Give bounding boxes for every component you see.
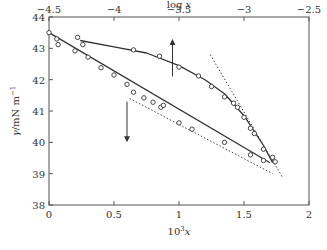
lower-data-point — [125, 82, 129, 86]
upper-data-point — [242, 115, 246, 119]
lower-data-point — [161, 103, 165, 107]
upper-data-point — [261, 147, 265, 151]
plot-frame — [49, 17, 309, 205]
lower-fit-line — [49, 33, 270, 163]
lower-data-point — [73, 49, 77, 53]
upper-data-point — [209, 84, 213, 88]
upper-data-point — [81, 42, 85, 46]
lower-data-point — [177, 121, 181, 125]
x-tick-label: 1.5 — [236, 209, 252, 220]
lower-data-point — [112, 73, 116, 77]
lower-data-point — [261, 158, 265, 162]
lower-data-point — [86, 55, 90, 59]
y-tick-label: 38 — [32, 200, 45, 211]
x2-tick-label: −4 — [107, 4, 122, 15]
lower-data-point — [55, 37, 59, 41]
upper-data-point — [222, 95, 226, 99]
upper-data-point — [157, 54, 161, 58]
tangent-lower-line — [130, 98, 273, 173]
lower-data-point — [142, 96, 146, 100]
lower-data-point — [248, 153, 252, 157]
y-tick-label: 40 — [32, 137, 45, 148]
upper-data-point — [131, 48, 135, 52]
x-axis-label: 103x — [168, 225, 191, 237]
lower-data-point — [99, 66, 103, 70]
upper-data-point — [252, 131, 256, 135]
upper-fit-curve — [80, 41, 272, 163]
y-tick-label: 43 — [32, 43, 45, 54]
surface-tension-chart: 38394041424344 00.511.52 −4.5−4−3.5−3−2.… — [0, 0, 327, 250]
y-tick-label: 39 — [32, 169, 45, 180]
upper-data-point — [231, 101, 235, 105]
x2-axis-label: log x — [167, 0, 192, 10]
upper-data-point — [270, 155, 274, 159]
lower-data-point — [222, 140, 226, 144]
upper-data-point — [196, 74, 200, 78]
y-axis-label: γ/mN m−1 — [9, 86, 21, 137]
y-tick-label: 42 — [32, 75, 45, 86]
x2-tick-label: −2.5 — [297, 4, 321, 15]
x2-tick-label: −4.5 — [37, 4, 61, 15]
y-tick-label: 41 — [32, 106, 45, 117]
x-tick-label: 0 — [46, 209, 52, 220]
lower-data-point — [47, 30, 51, 34]
x-tick-label: 1 — [176, 209, 182, 220]
x2-tick-label: −3 — [237, 4, 252, 15]
upper-data-point — [235, 105, 239, 109]
upper-data-point — [75, 35, 79, 39]
upper-data-point — [273, 160, 277, 164]
lower-data-point — [56, 42, 60, 46]
y-axis: 38394041424344 — [32, 12, 53, 211]
upper-data-point — [248, 126, 252, 130]
x-tick-label: 0.5 — [106, 209, 122, 220]
upper-data-point — [177, 65, 181, 69]
lower-data-point — [151, 100, 155, 104]
lower-data-point — [131, 90, 135, 94]
x-axis-bottom: 00.511.52 — [46, 201, 312, 220]
x-tick-label: 2 — [306, 209, 312, 220]
lower-data-point — [190, 127, 194, 131]
